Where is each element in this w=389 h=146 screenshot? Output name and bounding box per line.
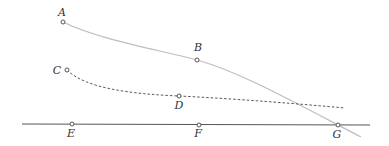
- point-c: [65, 68, 69, 72]
- label-d: D: [174, 99, 184, 112]
- label-c: C: [53, 64, 62, 77]
- curve-abg: [63, 22, 361, 137]
- label-f: F: [193, 127, 202, 140]
- point-g: [336, 123, 340, 127]
- point-b: [195, 58, 199, 62]
- dashed-curve-cd: [67, 70, 345, 108]
- label-e: E: [66, 127, 75, 140]
- label-a: A: [57, 6, 66, 19]
- point-d: [177, 94, 181, 98]
- geometry-diagram: ABCDEFG: [0, 0, 389, 146]
- point-e: [70, 122, 74, 126]
- label-g: G: [333, 128, 342, 141]
- label-b: B: [193, 41, 202, 54]
- point-a: [61, 20, 65, 24]
